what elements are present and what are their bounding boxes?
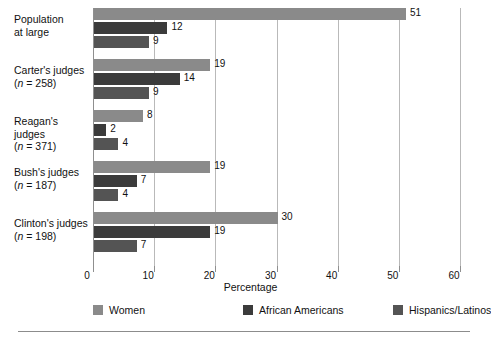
bar — [94, 226, 210, 238]
bar — [94, 110, 143, 122]
category-label: Populationat large — [14, 13, 90, 38]
bar-group: 19149 — [94, 59, 460, 101]
bar — [94, 138, 118, 150]
bar-value-label: 7 — [141, 239, 147, 251]
legend-item: African Americans — [243, 304, 344, 316]
bottom-divider — [18, 331, 470, 332]
bar-value-label: 8 — [147, 109, 153, 121]
x-tick-60 — [460, 266, 461, 272]
x-tick-50 — [399, 266, 400, 272]
italic-n: n — [18, 179, 24, 191]
bar — [94, 8, 406, 20]
bar-row: 14 — [94, 73, 460, 85]
bar-value-label: 2 — [110, 123, 116, 135]
category-label: Bush's judges(n = 187) — [14, 166, 90, 191]
italic-n: n — [18, 77, 24, 89]
chart-legend: WomenAfrican AmericansHispanics/Latinos — [93, 304, 473, 318]
bar-value-label: 51 — [410, 7, 421, 19]
category-label-line1: Carter's judges — [14, 64, 90, 77]
bar-row: 2 — [94, 124, 460, 136]
category-label-line2: (n = 187) — [14, 179, 90, 192]
bar — [94, 240, 137, 252]
x-tick-30 — [277, 266, 278, 272]
bar-row: 12 — [94, 22, 460, 34]
bar-value-label: 30 — [282, 211, 293, 223]
bar-value-label: 19 — [214, 160, 225, 172]
bar — [94, 212, 278, 224]
x-axis-title: Percentage — [0, 281, 481, 293]
bar-group: 51129 — [94, 8, 460, 50]
category-label-line1: Clinton's judges — [14, 217, 90, 230]
category-label: Reagan's judges(n = 371) — [14, 115, 90, 153]
bar-value-label: 4 — [122, 188, 128, 200]
bar-row: 19 — [94, 226, 460, 238]
bar — [94, 189, 118, 201]
bar — [94, 124, 106, 136]
bar-row: 7 — [94, 175, 460, 187]
bar-group: 1974 — [94, 161, 460, 203]
bar — [94, 59, 210, 71]
x-tick-40 — [338, 266, 339, 272]
italic-n: n — [18, 140, 24, 152]
bar-row: 8 — [94, 110, 460, 122]
bar — [94, 175, 137, 187]
bar-row: 9 — [94, 87, 460, 99]
bar — [94, 161, 210, 173]
legend-swatch-icon — [243, 305, 253, 315]
legend-swatch-icon — [393, 305, 403, 315]
category-label: Carter's judges(n = 258) — [14, 64, 90, 89]
bar-value-label: 9 — [153, 86, 159, 98]
bar-group: 30197 — [94, 212, 460, 254]
bar — [94, 36, 149, 48]
legend-item: Women — [93, 304, 145, 316]
bar — [94, 73, 180, 85]
bar-row: 19 — [94, 161, 460, 173]
category-label-line1: Bush's judges — [14, 166, 90, 179]
legend-label: Hispanics/Latinos — [409, 304, 491, 316]
italic-n: n — [18, 230, 24, 242]
x-tick-10 — [154, 266, 155, 272]
bar-row: 4 — [94, 138, 460, 150]
bar-group: 824 — [94, 110, 460, 152]
category-label-line1: Reagan's judges — [14, 115, 90, 140]
bar-value-label: 19 — [214, 58, 225, 70]
x-tick-0 — [93, 266, 94, 272]
bar-value-label: 4 — [122, 137, 128, 149]
legend-swatch-icon — [93, 305, 103, 315]
category-label: Clinton's judges(n = 198) — [14, 217, 90, 242]
bar-row: 9 — [94, 36, 460, 48]
bar-row: 4 — [94, 189, 460, 201]
category-label-line2: (n = 371) — [14, 140, 90, 153]
bar-row: 7 — [94, 240, 460, 252]
gridline-60 — [460, 8, 461, 266]
bar-value-label: 19 — [214, 225, 225, 237]
bar-value-label: 7 — [141, 174, 147, 186]
bar-row: 30 — [94, 212, 460, 224]
bar-value-label: 14 — [184, 72, 195, 84]
bar-row: 19 — [94, 59, 460, 71]
category-label-line2: at large — [14, 26, 90, 39]
x-tick-20 — [215, 266, 216, 272]
legend-label: African Americans — [259, 304, 344, 316]
category-label-line2: (n = 198) — [14, 230, 90, 243]
bar — [94, 87, 149, 99]
legend-item: Hispanics/Latinos — [393, 304, 491, 316]
bar-value-label: 9 — [153, 35, 159, 47]
bar — [94, 22, 167, 34]
bar-value-label: 12 — [171, 21, 182, 33]
category-label-line2: (n = 258) — [14, 77, 90, 90]
bar-row: 51 — [94, 8, 460, 20]
legend-label: Women — [109, 304, 145, 316]
plot-area: 5112919149824197430197 — [93, 8, 460, 266]
category-label-line1: Population — [14, 13, 90, 26]
